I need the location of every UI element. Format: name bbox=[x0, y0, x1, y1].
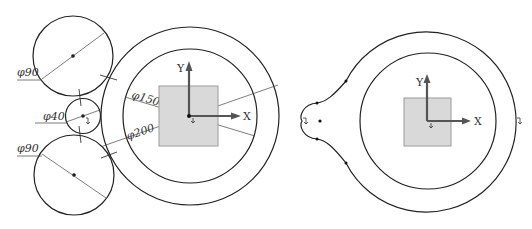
left-diagram: φ90 φ40 φ90 φ150 φ200 Y X bbox=[17, 16, 279, 215]
dim-label-top: φ90 bbox=[17, 66, 39, 79]
y-axis-label: Y bbox=[176, 62, 185, 75]
node-point bbox=[316, 138, 319, 141]
start-marker-icon bbox=[517, 118, 522, 124]
node-point bbox=[345, 162, 348, 165]
x-axis-label: X bbox=[243, 110, 251, 123]
x-axis-arrow-icon bbox=[462, 118, 471, 125]
y-axis-label: Y bbox=[415, 76, 424, 89]
node-point bbox=[316, 102, 319, 105]
origin-marker-icon bbox=[86, 118, 90, 124]
tangent-tick bbox=[79, 89, 81, 106]
x-axis-arrow-icon bbox=[231, 113, 241, 120]
dim-label-outer: φ200 bbox=[125, 121, 156, 143]
lobe-center-dot bbox=[318, 119, 321, 122]
dim-label-bottom: φ90 bbox=[17, 142, 39, 155]
dim-label-inner: φ150 bbox=[130, 88, 161, 108]
right-diagram: Y X bbox=[301, 32, 522, 212]
dim-line-top bbox=[42, 33, 104, 79]
y-axis-arrow-icon bbox=[424, 74, 431, 83]
dim-label-small: φ40 bbox=[43, 110, 65, 123]
cad-drawing: φ90 φ40 φ90 φ150 φ200 Y X bbox=[0, 0, 532, 229]
dim-line-bottom bbox=[42, 154, 106, 198]
dim-line-small bbox=[66, 110, 100, 122]
start-marker-icon bbox=[303, 118, 308, 124]
origin-dot bbox=[187, 114, 191, 118]
x-axis-label: X bbox=[474, 115, 482, 128]
node-point bbox=[345, 80, 348, 83]
tangent-tick bbox=[79, 126, 81, 143]
y-axis-arrow-icon bbox=[186, 61, 193, 71]
